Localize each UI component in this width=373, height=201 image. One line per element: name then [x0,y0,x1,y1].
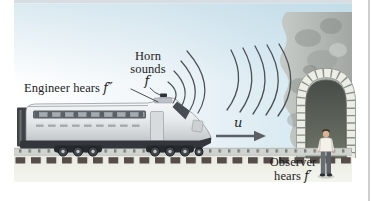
page-edge-line [368,0,370,201]
engineer-frequency-symbol: f″ [103,80,113,95]
observer-label-line2: hears f′ [255,169,331,183]
figure-top-edge [14,0,352,3]
horn-frequency-symbol: f [137,74,157,87]
velocity-label: u [234,116,242,129]
train-cab-roof [154,98,172,103]
observer-label: Observer hears f′ [255,156,331,183]
observer-frequency-symbol: f′ [304,168,312,183]
doppler-effect-figure: Engineer hears f″ Horn sounds f u Observ… [0,0,373,201]
engineer-label: Engineer hears f″ [24,81,113,95]
train-door [151,112,164,142]
observer-label-line1: Observer [255,156,331,169]
engineer-label-text: Engineer hears [24,81,103,95]
